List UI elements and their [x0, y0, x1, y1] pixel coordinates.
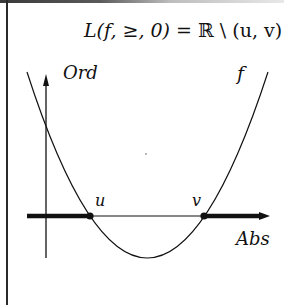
speck: [145, 153, 147, 155]
point-label-u: u: [95, 191, 105, 210]
point-label-v: v: [192, 191, 201, 210]
figure-frame: L(f, ≥, 0) = ℝ \ (u, v) Ord f u v Abs: [0, 0, 284, 305]
curve-label-f: f: [237, 62, 244, 84]
x-axis-label: Abs: [236, 228, 270, 249]
y-axis-arrow-icon: [43, 74, 49, 86]
point-v: [200, 212, 207, 219]
y-axis-label: Ord: [63, 62, 98, 83]
plot-svg: [0, 0, 284, 305]
x-axis-arrow-icon: [259, 212, 270, 220]
point-u: [86, 212, 93, 219]
curve-f: [27, 72, 268, 258]
